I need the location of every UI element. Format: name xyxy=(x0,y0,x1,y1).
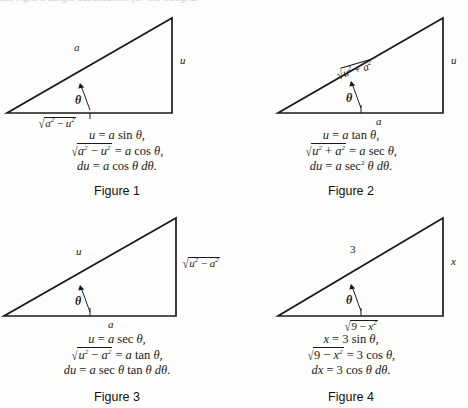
figure-3-vertical-label: √u2 − a2 xyxy=(182,256,220,269)
figure-2-formulas: u = a tan θ, √u2 + a2 = a sec θ, du = a … xyxy=(234,128,468,174)
figure-4-formula-2: √9 − x2 = 3 cos θ, xyxy=(234,347,468,363)
figure-3-formula-3: du = a sec θ tan θ dθ. xyxy=(0,363,234,378)
figure-3-triangle: u √u2 − a2 θ a xyxy=(0,204,234,332)
figure-4-formula-3: dx = 3 cos θ dθ. xyxy=(234,363,468,378)
figure-2-caption: Figure 2 xyxy=(234,184,468,198)
figure-1-triangle: a u θ √a2 − u2 xyxy=(0,0,234,128)
figure-3-caption: Figure 3 xyxy=(0,390,234,404)
figure-4: 3 x θ √9 − x2 x = 3 sin θ, √9 − x2 = 3 c… xyxy=(234,204,468,408)
figure-4-caption: Figure 4 xyxy=(234,390,468,404)
figure-2-base-label: a xyxy=(376,116,382,127)
figure-1-vertical-label: u xyxy=(180,55,186,66)
figure-3: u √u2 − a2 θ a u = a sec θ, √u2 − a2 = a… xyxy=(0,204,234,408)
figure-4-hypotenuse-label: 3 xyxy=(350,244,356,255)
figure-1-formula-2: √a2 − u2 = a cos θ, xyxy=(0,143,234,159)
triangle-shape-4 xyxy=(234,204,468,332)
figure-4-formulas: x = 3 sin θ, √9 − x2 = 3 cos θ, dx = 3 c… xyxy=(234,332,468,378)
figure-4-base-label: √9 − x2 xyxy=(344,319,378,332)
figure-4-angle-label: θ xyxy=(346,293,352,308)
figure-1-formulas: u = a sin θ, √a2 − u2 = a cos θ, du = a … xyxy=(0,128,234,174)
figure-1-formula-1: u = a sin θ, xyxy=(0,128,234,143)
figure-2-formula-3: du = a sec2 θ dθ. xyxy=(234,159,468,174)
figure-2: √u2 + a2 u θ a u = a tan θ, √u2 + a2 = a… xyxy=(234,0,468,204)
figure-2-formula-1: u = a tan θ, xyxy=(234,128,468,143)
figure-2-formula-2: √u2 + a2 = a sec θ, xyxy=(234,143,468,159)
figure-3-formula-1: u = a sec θ, xyxy=(0,332,234,347)
figure-4-formula-1: x = 3 sin θ, xyxy=(234,332,468,347)
figure-1-hypotenuse-label: a xyxy=(74,42,80,53)
figure-3-formula-2: √u2 − a2 = a tan θ, xyxy=(0,347,234,363)
figure-3-formulas: u = a sec θ, √u2 − a2 = a tan θ, du = a … xyxy=(0,332,234,378)
figure-1-caption: Figure 1 xyxy=(0,184,234,198)
figure-1-formula-3: du = a cos θ dθ. xyxy=(0,159,234,174)
figure-sheet: the right triangle substitution for the … xyxy=(0,0,468,408)
figure-2-angle-label: θ xyxy=(346,91,352,106)
figure-1-angle-label: θ xyxy=(75,93,81,108)
figure-2-vertical-label: u xyxy=(451,55,457,66)
figure-3-hypotenuse-label: u xyxy=(76,246,82,257)
figure-2-triangle: √u2 + a2 u θ a xyxy=(234,0,468,128)
figure-3-angle-label: θ xyxy=(75,294,81,309)
triangle-shape-1 xyxy=(0,0,234,128)
figure-1: a u θ √a2 − u2 u = a sin θ, √a2 − u2 = a… xyxy=(0,0,234,204)
figure-3-base-label: a xyxy=(108,319,114,330)
figure-4-vertical-label: x xyxy=(451,256,456,267)
figure-4-triangle: 3 x θ √9 − x2 xyxy=(234,204,468,332)
